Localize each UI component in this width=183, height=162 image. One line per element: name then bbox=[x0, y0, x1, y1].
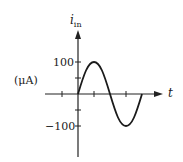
y-axis-label: iin bbox=[70, 14, 82, 29]
y-unit-label: (μA) bbox=[14, 75, 38, 86]
y-axis-arrow-icon bbox=[75, 30, 81, 39]
x-axis-arrow-icon bbox=[154, 91, 163, 97]
ytick-label-100: 100 bbox=[53, 57, 74, 68]
ytick-label-neg100: −100 bbox=[45, 121, 75, 132]
x-axis-label: t bbox=[168, 87, 173, 99]
